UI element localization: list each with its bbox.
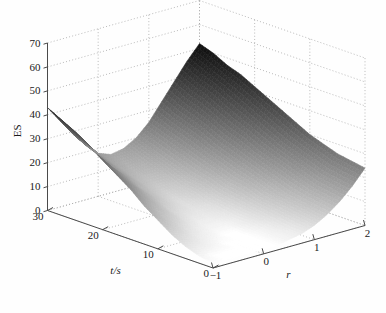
gridline-wall-left-z (48, 1, 200, 44)
y-tick-mark (48, 208, 54, 211)
z-tick-label: 40 (30, 108, 42, 120)
z-tick-mark (44, 43, 48, 44)
z-tick-mark (44, 67, 48, 68)
z-tick-label: 60 (30, 61, 42, 73)
x-tick-label: 0 (263, 255, 269, 267)
z-tick-label: 70 (30, 37, 42, 49)
y-tick-label: 10 (143, 248, 155, 260)
z-tick-mark (44, 139, 48, 140)
z-axis-title: ES (11, 124, 23, 137)
y-tick-label: 20 (88, 229, 100, 241)
surface-patch (48, 108, 53, 113)
gridline-wall-left-z (48, 24, 200, 67)
y-tick-label: 0 (204, 267, 210, 279)
surface-plot-3d: 010203040506070ES3020100t/s−1012r (0, 0, 386, 313)
z-tick-mark (44, 187, 48, 188)
figure-container: 010203040506070ES3020100t/s−1012r (0, 0, 386, 313)
z-tick-mark (44, 91, 48, 92)
z-tick-mark (44, 163, 48, 164)
z-tick-label: 10 (30, 180, 42, 192)
x-tick-label: 2 (365, 227, 371, 239)
gridline-wall-right-z (200, 1, 366, 59)
y-tick-mark (158, 246, 164, 249)
z-tick-mark (44, 211, 48, 212)
x-tick-label: 1 (314, 241, 320, 253)
x-tick-label: −1 (210, 269, 222, 281)
x-axis-title: r (286, 268, 291, 280)
z-tick-label: 30 (30, 132, 42, 144)
z-tick-label: 50 (30, 84, 42, 96)
y-tick-mark (103, 227, 109, 230)
z-tick-label: 20 (30, 156, 42, 168)
y-tick-label: 30 (33, 210, 45, 222)
y-axis-title: t/s (110, 264, 120, 276)
z-tick-mark (44, 115, 48, 116)
